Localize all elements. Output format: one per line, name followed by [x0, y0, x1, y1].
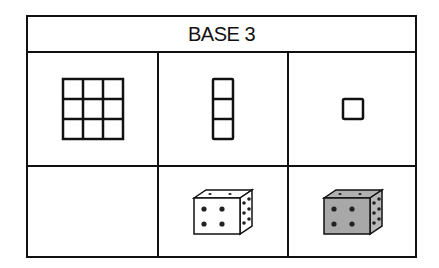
cell-empty: [28, 167, 157, 258]
base-3-table: BASE 3: [26, 15, 417, 258]
cell-white-die: [159, 167, 287, 258]
grid-3x3-icon: [61, 77, 125, 141]
unit-square-icon: [341, 97, 365, 121]
table-title: BASE 3: [28, 17, 415, 53]
gray-die-icon: [322, 188, 384, 238]
cell-gray-die: [289, 167, 417, 258]
white-die-icon: [192, 188, 254, 238]
column-3-icon: [211, 77, 235, 141]
cell-nine: [28, 53, 157, 165]
cell-one: [289, 53, 417, 165]
cell-three: [159, 53, 287, 165]
